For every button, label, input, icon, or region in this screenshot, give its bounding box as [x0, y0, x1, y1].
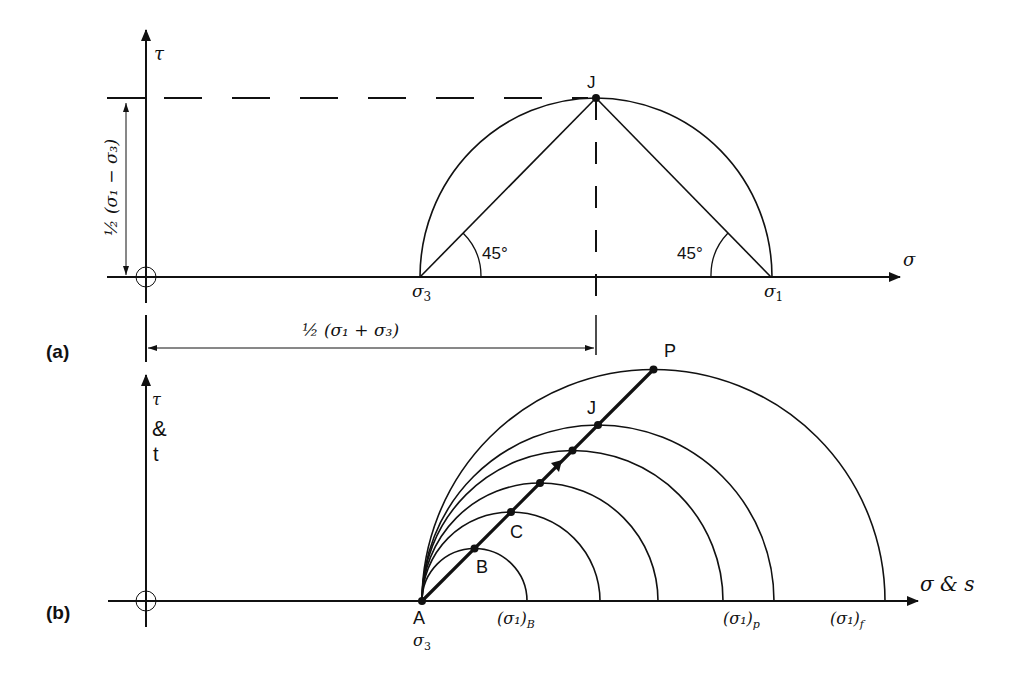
sigma3-label-a: σ3: [412, 281, 431, 304]
point-p-label: P: [664, 341, 676, 361]
tick-label-sigma1-b: (σ₁)B: [497, 609, 535, 631]
mohr-circle-b-4: [422, 450, 723, 601]
angle-arc-right: [711, 233, 728, 277]
panel-a: τ σ J 45° 45° σ3 σ1 ½ (σ₁ − σ₃) ½ (σ₁ + …: [46, 30, 916, 362]
point-a-marker: [418, 597, 426, 605]
amp-label-b: &: [152, 416, 167, 441]
panel-b: τ & t σ & s A σ3 B C J P (σ₁)B (σ₁)p (σ₁…: [46, 341, 974, 653]
point-j-a: [592, 94, 600, 102]
tau-axis-label-a: τ: [154, 43, 165, 64]
t-label-b: t: [153, 443, 159, 465]
point-a-label: A: [413, 608, 425, 628]
x-axis-label-b: σ & s: [920, 572, 974, 596]
mohr-circles-b: [422, 370, 885, 602]
stress-path-point-4: [569, 447, 577, 455]
mohr-circle-b-1: [422, 549, 527, 602]
point-b-label: B: [476, 557, 488, 577]
sigma3-label-b: σ3: [413, 631, 431, 653]
point-c-label: C: [510, 522, 523, 542]
tau-label-b: τ: [152, 390, 162, 409]
point-j-label-a: J: [587, 73, 596, 92]
point-j-label-b: J: [587, 398, 596, 418]
sigma-axis-label-a: σ: [903, 249, 916, 270]
tick-label-sigma1-f: (σ₁)f: [830, 609, 866, 631]
stress-path-point-5: [594, 421, 602, 429]
stress-path-point-3: [536, 479, 544, 487]
panel-a-tag: (a): [46, 341, 69, 362]
angle-arc-left: [463, 233, 481, 277]
vertical-dim-label: ½ (σ₁ − σ₃): [101, 139, 121, 236]
tick-label-sigma1-p: (σ₁)p: [723, 609, 760, 631]
angle-left-label: 45°: [482, 244, 508, 263]
mohr-circle-diagram: τ σ J 45° 45° σ3 σ1 ½ (σ₁ − σ₃) ½ (σ₁ + …: [0, 0, 1011, 682]
horizontal-dim-label: ½ (σ₁ + σ₃): [302, 320, 399, 340]
stress-path-point-6: [650, 366, 658, 374]
stress-path-point-1: [471, 545, 479, 553]
panel-b-tag: (b): [46, 602, 70, 623]
mohr-circle-b-3: [422, 483, 658, 601]
sigma1-label-a: σ1: [764, 281, 783, 304]
stress-path-point-2: [507, 508, 515, 516]
chord-left: [420, 98, 596, 277]
angle-right-label: 45°: [677, 244, 703, 263]
